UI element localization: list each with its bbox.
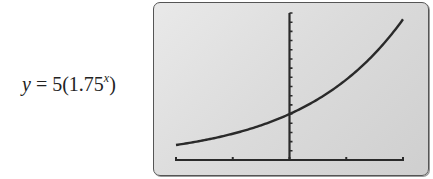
function-plot (154, 3, 428, 175)
graphing-calculator-screen (153, 2, 429, 176)
equation-close: ) (109, 73, 116, 95)
equation-label: y = 5(1.75x) (22, 73, 116, 96)
equation-lhs: y (22, 73, 31, 95)
equation-base: = 5(1.75 (31, 73, 104, 95)
